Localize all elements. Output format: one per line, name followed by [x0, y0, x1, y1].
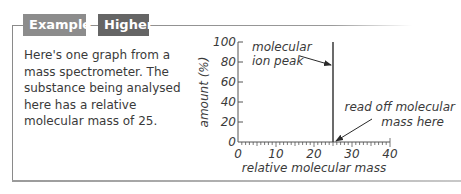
y-tick-60: 60	[221, 75, 237, 89]
x-tick-0: 0	[234, 147, 242, 161]
peak-annotation-arrow	[300, 56, 331, 65]
x-tick-40: 40	[382, 147, 398, 161]
x-axis-label: relative molecular mass	[242, 161, 386, 175]
y-tick-40: 40	[221, 95, 237, 109]
y-tick-100: 100	[213, 35, 236, 49]
y-tick-80: 80	[221, 55, 237, 69]
readoff-annotation-line2: mass here	[381, 115, 444, 129]
readoff-annotation-arrow	[336, 119, 372, 141]
x-tick-20: 20	[306, 147, 322, 161]
y-tick-20: 20	[221, 115, 237, 129]
y-axis-label: amount (%)	[197, 57, 211, 128]
x-tick-30: 30	[344, 147, 360, 161]
readoff-annotation-line1: read off molecular	[345, 100, 457, 114]
x-tick-labels: 0 10 20 30 40	[234, 147, 398, 161]
y-ticks	[238, 42, 243, 122]
y-tick-labels: 100 80 60 40 20 0	[213, 35, 236, 149]
peak-annotation-line1: molecular	[252, 40, 313, 54]
peak-annotation-line2: ion peak	[252, 54, 304, 68]
mass-spectrum-chart: 100 80 60 40 20 0 amount (%) 0 10 20 30	[0, 0, 461, 194]
x-tick-10: 10	[268, 147, 284, 161]
